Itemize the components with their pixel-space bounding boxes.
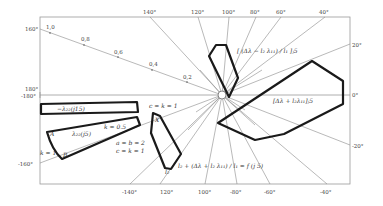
tick-label-top-100: 100°: [222, 9, 235, 15]
k-half-label: k = 0.5: [104, 123, 126, 130]
c-eq-label: c = k = 1: [149, 102, 178, 109]
tick-label-bottom-120: 120°: [160, 189, 173, 195]
lower-middle-polygon-label: l₂ + (Δλ + l₂ λ₁₁) / l₁ = f (j 5): [178, 162, 264, 170]
k-one-label: k = 1: [40, 149, 56, 156]
tick-label-bottom-60: -60°: [264, 189, 276, 195]
axis-top-labels: 140° 120° 100° 80° 60° 40°: [143, 9, 329, 15]
point-x-label: X: [154, 116, 160, 123]
radial-scale-labels: 1,0 0,8 0,6 0,4 0,2: [46, 24, 192, 80]
region-labels: [ (Δλ − l₂ λ₁₁) / l₁ ]ⱼ5 [Δλ + l₂λ₁₁]ⱼ5 …: [40, 47, 313, 175]
radial-label-0-8: 0,8: [81, 36, 90, 42]
tick-label-top-60: 60°: [276, 9, 286, 15]
tick-label-top-40: 40°: [319, 9, 329, 15]
tick-label-top-120: 120°: [191, 9, 204, 15]
tick-label-bottom-140: -140°: [122, 189, 137, 195]
axis-left-labels: 160° 180° -180° -160°: [18, 26, 38, 167]
radial-label-0-2: 0,2: [183, 74, 192, 80]
l-prime-label: l₂: [165, 168, 170, 175]
c-eq2-label: c = k = 1: [116, 147, 145, 154]
diagram-canvas: 140° 120° 100° 80° 60° 40° -140° 120° 10…: [0, 0, 383, 206]
axis-right-labels: 20° 0° -20°: [352, 42, 364, 149]
tick-label-bottom-40: -40°: [320, 189, 332, 195]
tick-label-left-180: 180°: [25, 86, 38, 92]
origin-circle: [218, 91, 226, 99]
left-top-band-label: −λ₂₂(j15): [57, 105, 85, 113]
upper-polygon-label: [ (Δλ − l₂ λ₁₁) / l₁ ]ⱼ5: [237, 47, 298, 54]
upper-polygon: [209, 45, 238, 97]
tick-label-top-80: 80°: [250, 9, 260, 15]
tick-label-right-neg20: -20°: [352, 143, 364, 149]
point-a-label: A: [49, 130, 55, 137]
tick-label-right-0: 0°: [352, 92, 358, 98]
tick-label-top-140: 140°: [143, 9, 156, 15]
radial-label-0-4: 0,4: [149, 61, 158, 67]
point-b-label: B: [62, 151, 68, 158]
radial-label-1-0: 1,0: [46, 24, 55, 30]
tick-label-right-20: 20°: [352, 42, 362, 48]
tick-label-left-neg180: -180°: [21, 93, 36, 99]
tick-label-bottom-80: -80°: [230, 189, 242, 195]
left-top-band: [41, 102, 138, 114]
tick-label-left-160: 160°: [25, 26, 38, 32]
tick-label-bottom-100: 100°: [198, 189, 211, 195]
radial-label-0-6: 0,6: [114, 49, 123, 55]
axis-bottom-labels: -140° 120° 100° -80° -60° -40°: [122, 189, 332, 195]
a-eq-label: a = b = 2: [116, 139, 145, 146]
tick-label-left-neg160: -160°: [18, 161, 33, 167]
left-lower-band-label: λ₂₂(j5): [71, 130, 92, 138]
regions: [41, 45, 343, 169]
right-polygon-label: [Δλ + l₂λ₁₁]ⱼ5: [273, 97, 313, 104]
